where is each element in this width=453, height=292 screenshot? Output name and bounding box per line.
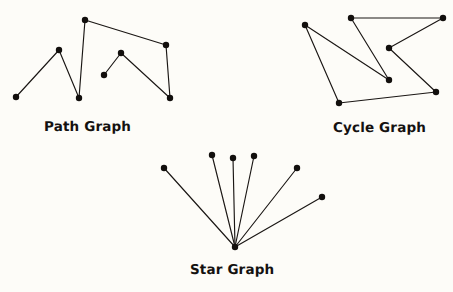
cycle-vertex xyxy=(386,45,392,51)
cycle-edge xyxy=(339,92,436,103)
star-vertex xyxy=(319,194,325,200)
cycle-vertex xyxy=(386,77,392,83)
path-edge xyxy=(166,45,170,98)
cycle-vertex xyxy=(302,22,308,28)
path-edge xyxy=(59,50,79,98)
path-vertex xyxy=(118,50,124,56)
path-vertex xyxy=(82,17,88,23)
cycle-vertex xyxy=(440,15,446,21)
star-vertex xyxy=(209,152,215,158)
path-vertex xyxy=(167,95,173,101)
path-edge xyxy=(121,53,170,98)
path-vertex xyxy=(101,72,107,78)
star-graph-caption: Star Graph xyxy=(190,262,274,278)
graph-figure: Path Graph Cycle Graph Star Graph xyxy=(0,0,453,292)
star-vertex xyxy=(161,165,167,171)
star-graph-vertices xyxy=(161,152,325,250)
star-edge xyxy=(235,168,297,247)
star-edge xyxy=(235,197,322,247)
path-vertex xyxy=(76,95,82,101)
cycle-vertex xyxy=(348,15,354,21)
cycle-vertex xyxy=(336,100,342,106)
cycle-graph-edges xyxy=(305,18,443,103)
path-graph-edges xyxy=(16,20,170,98)
star-edge xyxy=(235,156,254,247)
path-graph-vertices xyxy=(13,17,173,101)
path-edge xyxy=(16,50,59,97)
star-edge xyxy=(212,155,235,247)
path-vertex xyxy=(13,94,19,100)
graph-canvas xyxy=(0,0,453,292)
star-vertex xyxy=(230,155,236,161)
star-vertex xyxy=(232,244,238,250)
path-edge xyxy=(85,20,166,45)
star-vertex xyxy=(251,153,257,159)
path-edge xyxy=(79,20,85,98)
star-edge xyxy=(164,168,235,247)
path-graph xyxy=(13,17,173,101)
cycle-edge xyxy=(389,18,443,48)
path-vertex xyxy=(56,47,62,53)
path-vertex xyxy=(163,42,169,48)
cycle-graph-caption: Cycle Graph xyxy=(333,120,426,136)
cycle-edge xyxy=(389,48,436,92)
cycle-edge xyxy=(351,18,389,80)
path-edge xyxy=(104,53,121,75)
star-edge xyxy=(233,158,235,247)
cycle-vertex xyxy=(433,89,439,95)
star-vertex xyxy=(294,165,300,171)
star-graph xyxy=(161,152,325,250)
path-graph-caption: Path Graph xyxy=(44,119,131,135)
cycle-graph xyxy=(302,15,446,106)
